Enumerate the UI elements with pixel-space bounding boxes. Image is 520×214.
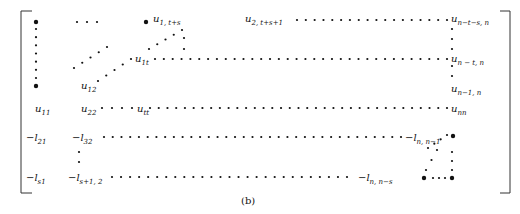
matrix-entry-u1t: u1t <box>135 54 149 64</box>
matrix-entry-u22: u22 <box>81 104 96 114</box>
matrix-entry-untn: un − t, n <box>451 54 484 64</box>
right-bracket <box>500 11 510 193</box>
matrix-entry-u1ts: u1, t+s <box>153 14 181 24</box>
matrix-entry-u2ts1: u2, t+s+1 <box>245 14 283 24</box>
matrix-entry-un1n: un−1, n <box>451 84 481 94</box>
matrix-entry-unn: unn <box>451 104 466 114</box>
matrix-entry-utt: utt <box>137 104 149 114</box>
matrix-entry-ls1: −ls1 <box>26 173 46 183</box>
dot-patterns <box>34 19 455 180</box>
figure-caption: (b) <box>241 195 255 206</box>
matrix-entry-unts: un−t−s, n <box>451 14 489 24</box>
left-bracket <box>21 11 32 193</box>
matrix-entry-l21: −l21 <box>26 133 47 143</box>
matrix-entry-lnn1: −ln, n−1 <box>405 133 440 143</box>
matrix-entry-ls12: −ls+1, 2 <box>68 173 102 183</box>
matrix-entry-lnns: −ln, n−s <box>358 173 393 183</box>
matrix-entry-l32: −l32 <box>72 133 93 143</box>
matrix-entry-u11: u11 <box>35 104 50 114</box>
matrix-entry-u12: u12 <box>81 81 96 91</box>
